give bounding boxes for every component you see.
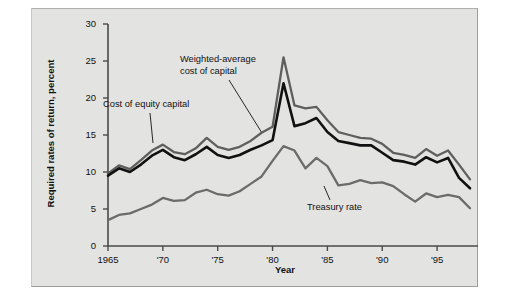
annotation-wacc-line2: cost of capital [180, 66, 256, 78]
annotation-wacc-line1: Weighted-average [180, 54, 256, 66]
annotation-wacc: Weighted-average cost of capital [180, 54, 256, 77]
x-axis-title: Year [255, 264, 315, 275]
series-line-cost-of-equity-capital [108, 57, 470, 179]
y-tick-label: 0 [74, 240, 96, 251]
x-tick-label: '70 [143, 254, 183, 265]
annotation-treasury-rate: Treasury rate [307, 202, 362, 214]
y-tick-label: 20 [74, 92, 96, 103]
y-tick-label: 30 [74, 18, 96, 29]
x-tick-label: '75 [198, 254, 238, 265]
y-tick-label: 10 [74, 166, 96, 177]
y-tick-label: 15 [74, 129, 96, 140]
y-axis-title: Required rates of return, percent [45, 54, 56, 214]
y-tick-label: 5 [74, 203, 96, 214]
figure-root: 051015202530 1965'70'75'80'85'90'95 Requ… [0, 0, 508, 296]
y-tick-label: 25 [74, 55, 96, 66]
annotation-cost-of-equity: Cost of equity capital [103, 99, 189, 111]
x-tick-label: '95 [417, 254, 457, 265]
x-tick-label: '90 [362, 254, 402, 265]
data-series-group [108, 57, 470, 220]
x-tick-label: 1965 [88, 254, 128, 265]
chart-plot-area [0, 0, 508, 296]
annotation-leader-lines [150, 80, 330, 200]
axis-lines [108, 24, 478, 246]
